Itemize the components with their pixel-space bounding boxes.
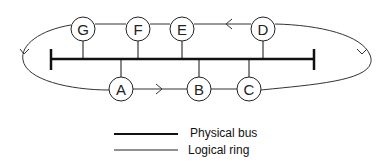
node-g: G (71, 17, 95, 41)
legend-physical-bus-label: Physical bus (190, 126, 257, 140)
svg-text:D: D (258, 21, 269, 38)
node-f: F (126, 17, 150, 41)
svg-text:E: E (177, 21, 187, 38)
node-e: E (170, 17, 194, 41)
node-d: D (251, 17, 275, 41)
physical-bus (51, 41, 314, 77)
svg-text:C: C (244, 81, 255, 98)
legend-logical-ring-label: Logical ring (188, 143, 249, 157)
node-a: A (109, 77, 133, 101)
node-c: C (237, 77, 261, 101)
svg-text:A: A (116, 81, 126, 98)
svg-text:G: G (77, 21, 89, 38)
node-b: B (187, 77, 211, 101)
svg-text:B: B (194, 81, 204, 98)
svg-text:F: F (133, 21, 142, 38)
